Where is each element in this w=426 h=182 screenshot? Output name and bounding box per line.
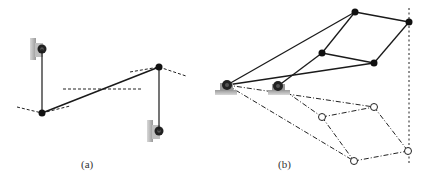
panel-b-label: (b) bbox=[278, 158, 291, 171]
panel-b: (b) bbox=[215, 8, 413, 171]
diagram-canvas: (a) bbox=[0, 0, 426, 182]
filled-joints bbox=[319, 9, 413, 67]
ground-pivot-a bbox=[215, 80, 237, 95]
open-joints bbox=[319, 104, 412, 165]
ground-pivot-b bbox=[268, 81, 290, 95]
panel-a: (a) bbox=[17, 38, 186, 171]
joint-upper-right bbox=[156, 64, 163, 71]
ground-support-top-left bbox=[30, 38, 47, 60]
panel-a-label: (a) bbox=[81, 158, 94, 171]
reflected-linkage bbox=[227, 85, 408, 161]
ground-support-bottom-right bbox=[147, 120, 164, 142]
joint-lower-left bbox=[39, 110, 46, 117]
links-a bbox=[42, 49, 159, 131]
solid-linkage bbox=[227, 12, 409, 86]
